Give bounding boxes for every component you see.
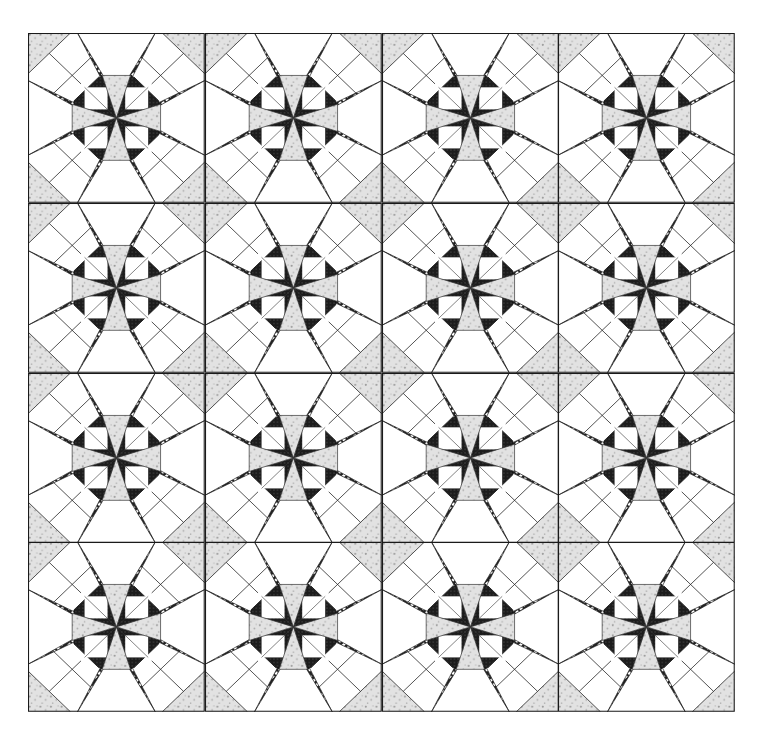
- star-block: [205, 542, 382, 712]
- star-block: [205, 33, 382, 203]
- star-block: [382, 33, 559, 203]
- star-block: [558, 542, 735, 712]
- star-block: [28, 542, 205, 712]
- star-block: [382, 542, 559, 712]
- star-block: [382, 203, 559, 373]
- star-block: [558, 373, 735, 543]
- star-block: [28, 373, 205, 543]
- star-block: [28, 203, 205, 373]
- star-block: [558, 203, 735, 373]
- star-block: [382, 373, 559, 543]
- star-block: [558, 33, 735, 203]
- star-block: [205, 203, 382, 373]
- star-block: [205, 373, 382, 543]
- star-block: [28, 33, 205, 203]
- quilt-grid: [28, 33, 735, 712]
